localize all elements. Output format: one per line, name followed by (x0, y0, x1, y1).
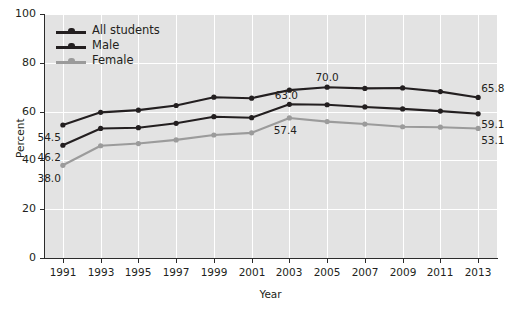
series-point (438, 125, 443, 130)
legend-marker-icon (68, 28, 75, 35)
series-point (60, 163, 65, 168)
series-point (136, 108, 141, 113)
data-point-label: 54.5 (1, 131, 61, 143)
series-point (325, 102, 330, 107)
legend-marker-icon (68, 43, 75, 50)
data-point-label: 57.4 (255, 124, 315, 136)
legend-marker-icon (68, 58, 75, 65)
series-point (211, 114, 216, 119)
series-point (136, 125, 141, 130)
series-point (249, 96, 254, 101)
series-point (362, 86, 367, 91)
series-point (325, 85, 330, 90)
series-point (287, 115, 292, 120)
legend-label: Female (92, 53, 134, 67)
series-point (400, 124, 405, 129)
data-point-label: 63.0 (256, 89, 316, 101)
series-point (174, 137, 179, 142)
series-point (400, 106, 405, 111)
data-point-label: 65.8 (481, 82, 504, 94)
legend-label: Male (92, 38, 119, 52)
series-point (98, 143, 103, 148)
series-point (362, 104, 367, 109)
series-point (476, 95, 481, 100)
series-point (98, 110, 103, 115)
series-point (476, 126, 481, 131)
series-point (325, 119, 330, 124)
series-point (211, 95, 216, 100)
data-point-label: 46.2 (1, 151, 61, 163)
series-point (211, 132, 216, 137)
series-point (60, 122, 65, 127)
series-point (249, 130, 254, 135)
series-point (476, 111, 481, 116)
series-point (60, 143, 65, 148)
data-point-label: 70.0 (297, 71, 357, 83)
series-point (400, 85, 405, 90)
series-point (136, 141, 141, 146)
data-point-label: 53.1 (481, 134, 504, 146)
series-point (362, 121, 367, 126)
line-chart: 020406080100 199119931995199719992001200… (0, 0, 514, 311)
data-point-label: 38.0 (1, 172, 61, 184)
series-point (438, 109, 443, 114)
series-point (174, 103, 179, 108)
series-point (249, 115, 254, 120)
data-point-label: 59.1 (481, 118, 504, 130)
series-point (174, 121, 179, 126)
series-point (98, 126, 103, 131)
legend-label: All students (92, 23, 160, 37)
series-point (438, 89, 443, 94)
series-point (287, 102, 292, 107)
